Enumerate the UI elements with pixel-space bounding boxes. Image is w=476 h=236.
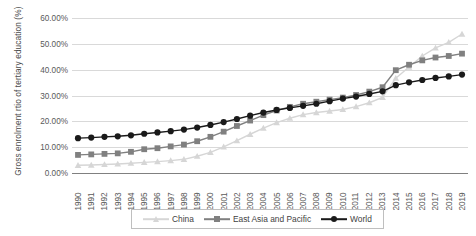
data-point-marker: [101, 134, 107, 140]
data-point-marker: [168, 128, 174, 134]
legend-item-world[interactable]: World: [321, 214, 372, 224]
data-point-marker: [419, 77, 425, 83]
data-point-marker: [287, 105, 293, 111]
data-point-marker: [419, 57, 425, 63]
data-point-marker: [234, 116, 240, 122]
data-point-marker: [393, 67, 399, 73]
legend-swatch-square-icon: [204, 214, 230, 224]
data-point-marker: [313, 101, 319, 107]
data-point-marker: [234, 137, 241, 143]
legend-marker: [153, 216, 159, 222]
data-point-marker: [406, 79, 412, 85]
data-point-marker: [326, 98, 332, 104]
y-axis-tick: 0.00%: [45, 169, 68, 178]
series-lines: [72, 18, 468, 173]
data-point-marker: [194, 138, 200, 144]
data-point-marker: [88, 152, 94, 158]
y-axis-tick-labels: 0.00%10.00%20.00%30.00%40.00%50.00%60.00…: [28, 0, 72, 182]
legend-label: East Asia and Pacific: [233, 214, 311, 224]
series-line: [78, 75, 462, 139]
data-point-marker: [141, 146, 147, 152]
data-point-marker: [207, 122, 213, 128]
series-east-asia-and-pacific: [75, 51, 465, 158]
data-point-marker: [88, 135, 94, 141]
data-point-marker: [181, 127, 187, 133]
data-point-marker: [234, 123, 240, 129]
data-point-marker: [221, 119, 227, 125]
data-point-marker: [459, 31, 466, 37]
data-point-marker: [102, 151, 108, 157]
data-point-marker: [208, 134, 214, 140]
legend-marker: [331, 216, 337, 222]
data-point-marker: [221, 129, 227, 135]
legend-label: China: [172, 214, 194, 224]
legend-swatch-circle-icon: [321, 214, 347, 224]
data-point-marker: [168, 143, 174, 149]
data-point-marker: [353, 93, 359, 99]
y-axis-tick: 30.00%: [40, 91, 68, 100]
data-point-marker: [433, 55, 439, 61]
data-point-marker: [406, 62, 412, 68]
y-axis-tick: 10.00%: [40, 143, 68, 152]
data-point-marker: [300, 103, 306, 109]
data-point-marker: [432, 75, 438, 81]
legend-marker: [214, 216, 220, 222]
data-point-marker: [459, 51, 465, 57]
plot-area: [72, 18, 468, 173]
y-axis-tick: 20.00%: [40, 117, 68, 126]
line-chart: Gross enrolment rtio of tertiary educati…: [0, 0, 476, 236]
series-china: [75, 31, 466, 168]
legend-label: World: [350, 214, 372, 224]
data-point-marker: [393, 82, 399, 88]
data-point-marker: [128, 132, 134, 138]
series-line: [78, 34, 462, 165]
data-point-marker: [260, 109, 266, 115]
data-point-marker: [115, 133, 121, 139]
data-point-marker: [155, 145, 161, 151]
data-point-marker: [115, 150, 121, 156]
data-point-marker: [274, 107, 280, 113]
data-point-marker: [379, 88, 385, 94]
data-point-marker: [128, 149, 134, 155]
series-world: [75, 71, 465, 141]
data-point-marker: [446, 73, 452, 79]
chart-legend[interactable]: ChinaEast Asia and PacificWorld: [131, 209, 384, 229]
data-point-marker: [340, 96, 346, 102]
y-axis-title-text: Gross enrolment rtio of tertiary educati…: [13, 6, 23, 175]
data-point-marker: [75, 135, 81, 141]
data-point-marker: [75, 152, 81, 158]
series-line: [78, 54, 462, 155]
y-axis-tick: 40.00%: [40, 65, 68, 74]
data-point-marker: [366, 91, 372, 97]
data-point-marker: [154, 129, 160, 135]
data-point-marker: [445, 39, 452, 45]
x-axis-tick-labels: 1990199119921993199419951996199719981999…: [72, 174, 468, 206]
legend-swatch-triangle-icon: [143, 214, 169, 224]
data-point-marker: [459, 71, 465, 77]
legend-item-east-asia-and-pacific[interactable]: East Asia and Pacific: [204, 214, 311, 224]
data-point-marker: [446, 53, 452, 59]
data-point-marker: [181, 142, 187, 148]
legend-item-china[interactable]: China: [143, 214, 194, 224]
data-point-marker: [194, 124, 200, 130]
y-axis-tick: 60.00%: [40, 14, 68, 23]
data-point-marker: [247, 113, 253, 119]
y-axis-tick: 50.00%: [40, 39, 68, 48]
data-point-marker: [141, 131, 147, 137]
